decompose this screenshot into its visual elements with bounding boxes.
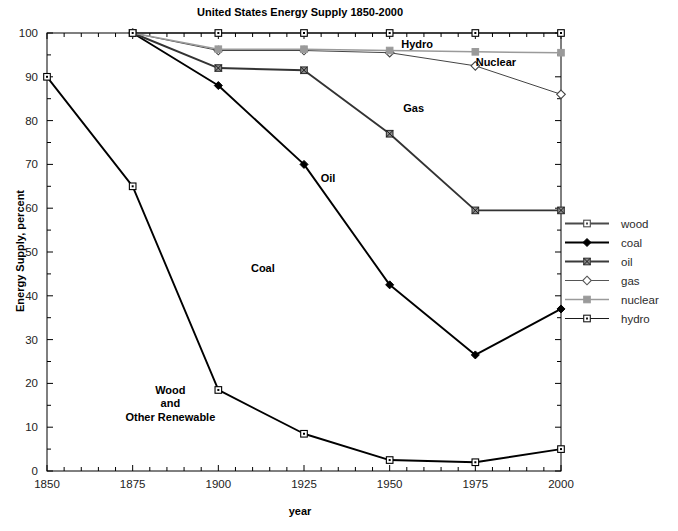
y-tick-label: 90 — [25, 71, 38, 83]
x-tick-label: 1925 — [291, 478, 317, 490]
y-tick-label: 80 — [25, 115, 38, 127]
x-tick-label: 1875 — [120, 478, 146, 490]
legend-item-hydro[interactable]: hydro — [563, 309, 675, 328]
marker-filled-diamond — [583, 239, 591, 247]
marker-filled-square-gray — [301, 46, 308, 53]
y-axis-title: Energy Supply, percent — [14, 161, 26, 341]
x-tick-label: 1950 — [377, 478, 403, 490]
marker-open-square-dot — [474, 32, 476, 34]
marker-open-square-dot — [560, 448, 562, 450]
legend-label: hydro — [611, 313, 650, 325]
legend-marker-filled-square-gray — [563, 290, 611, 309]
legend-symbol-svg — [563, 271, 611, 290]
legend-symbol-svg — [563, 309, 611, 328]
marker-open-square-dot — [303, 32, 305, 34]
legend-marker-filled-diamond — [563, 233, 611, 252]
legend-label: oil — [611, 256, 633, 268]
legend-label: coal — [611, 237, 642, 249]
legend-item-gas[interactable]: gas — [563, 271, 675, 290]
legend-item-coal[interactable]: coal — [563, 233, 675, 252]
marker-open-square-dot — [560, 32, 562, 34]
plot-annotation: Gas — [403, 102, 424, 114]
marker-open-square-dot — [217, 32, 219, 34]
plot-annotation: Oil — [321, 172, 336, 184]
series-line-wood — [47, 77, 561, 462]
marker-filled-square-gray — [386, 47, 393, 54]
legend-symbol-svg — [563, 233, 611, 252]
legend-marker-crossed-square — [563, 252, 611, 271]
plot-frame — [47, 33, 561, 471]
chart-legend: woodcoaloilgasnuclearhydro — [563, 214, 675, 328]
marker-open-square-dot — [132, 32, 134, 34]
legend-marker-open-square — [563, 214, 611, 233]
y-tick-label: 70 — [25, 158, 38, 170]
plot-annotation: Coal — [251, 262, 275, 274]
y-tick-label: 50 — [25, 246, 38, 258]
x-tick-label: 1975 — [463, 478, 489, 490]
plot-annotation: Other Renewable — [125, 411, 215, 423]
plot-annotation: Hydro — [401, 38, 433, 50]
marker-open-square-dot — [132, 185, 134, 187]
marker-open-square-dot — [303, 433, 305, 435]
legend-label: gas — [611, 275, 640, 287]
series-line-coal — [133, 33, 561, 355]
x-axis-title: year — [0, 505, 600, 517]
y-tick-label: 20 — [25, 377, 38, 389]
x-tick-label: 2000 — [548, 478, 574, 490]
marker-open-diamond — [583, 276, 592, 285]
marker-open-diamond — [557, 90, 566, 99]
legend-symbol-svg — [563, 252, 611, 271]
x-tick-label: 1850 — [34, 478, 60, 490]
legend-symbol-svg — [563, 290, 611, 309]
legend-item-wood[interactable]: wood — [563, 214, 675, 233]
plot-annotation: Nuclear — [476, 56, 517, 68]
marker-open-square-dot — [586, 223, 588, 225]
y-tick-label: 0 — [32, 465, 38, 477]
marker-open-square-dot — [46, 76, 48, 78]
marker-open-square-dot — [217, 389, 219, 391]
marker-open-square-dot — [586, 318, 588, 320]
legend-label: nuclear — [611, 294, 659, 306]
y-tick-label: 100 — [19, 27, 38, 39]
marker-open-square-dot — [389, 459, 391, 461]
marker-filled-square-gray — [472, 49, 479, 56]
legend-item-nuclear[interactable]: nuclear — [563, 290, 675, 309]
legend-marker-open-square — [563, 309, 611, 328]
chart-root: United States Energy Supply 1850-2000 18… — [0, 0, 678, 531]
plot-annotation: Wood — [155, 384, 185, 396]
marker-filled-square-gray — [584, 296, 591, 303]
series-hydro — [129, 30, 564, 37]
x-tick-label: 1900 — [206, 478, 232, 490]
marker-filled-square-gray — [558, 49, 565, 56]
marker-open-square-dot — [474, 461, 476, 463]
series-wood — [44, 74, 565, 466]
marker-open-square-dot — [389, 32, 391, 34]
legend-symbol-svg — [563, 214, 611, 233]
marker-filled-square-gray — [215, 46, 222, 53]
y-tick-label: 30 — [25, 334, 38, 346]
y-tick-label: 60 — [25, 202, 38, 214]
plot-annotation: and — [161, 397, 181, 409]
series-line-nuclear — [133, 33, 561, 53]
legend-item-oil[interactable]: oil — [563, 252, 675, 271]
legend-marker-open-diamond — [563, 271, 611, 290]
series-coal — [129, 29, 565, 359]
y-tick-label: 10 — [25, 421, 38, 433]
y-tick-label: 40 — [25, 290, 38, 302]
legend-label: wood — [611, 218, 649, 230]
